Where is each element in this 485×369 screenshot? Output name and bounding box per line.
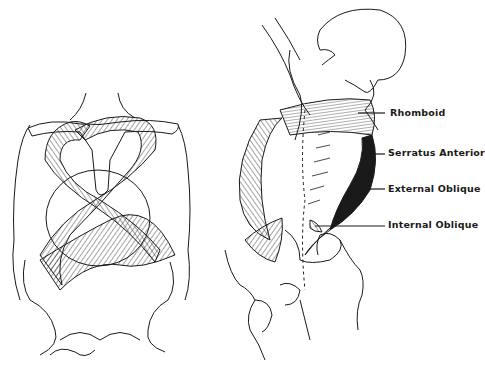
label-internal-oblique: Internal Oblique [388,219,478,230]
label-rhomboid: Rhomboid [390,107,446,118]
right-muscle-chain [239,99,375,262]
rhomboid-muscle [280,99,375,135]
label-serratus-anterior: Serratus Anterior [388,147,485,158]
serratus-anterior-muscle [330,135,376,230]
label-external-oblique: External Oblique [388,183,481,194]
